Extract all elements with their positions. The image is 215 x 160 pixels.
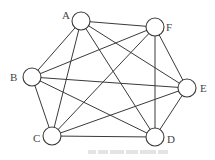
node-C bbox=[43, 127, 61, 145]
figure-caption-illegible bbox=[88, 150, 183, 155]
edge-A-F bbox=[81, 21, 155, 27]
edge-B-E bbox=[32, 77, 187, 88]
node-B bbox=[23, 68, 41, 86]
node-label-D: D bbox=[167, 133, 175, 145]
node-F bbox=[146, 18, 164, 36]
node-label-A: A bbox=[62, 9, 70, 21]
nodes-group: AFBECD bbox=[10, 9, 207, 146]
node-E bbox=[178, 79, 196, 97]
node-label-E: E bbox=[200, 82, 207, 94]
edge-C-D bbox=[52, 136, 155, 137]
node-label-F: F bbox=[166, 21, 172, 33]
node-label-B: B bbox=[10, 71, 17, 83]
edge-F-E bbox=[155, 27, 187, 88]
edge-C-E bbox=[52, 88, 187, 136]
node-A bbox=[72, 12, 90, 30]
graph-diagram: AFBECD bbox=[0, 0, 215, 160]
edge-F-C bbox=[52, 27, 155, 136]
node-label-C: C bbox=[33, 132, 40, 144]
edge-F-B bbox=[32, 27, 155, 77]
node-D bbox=[146, 128, 164, 146]
edges-group bbox=[32, 21, 187, 137]
